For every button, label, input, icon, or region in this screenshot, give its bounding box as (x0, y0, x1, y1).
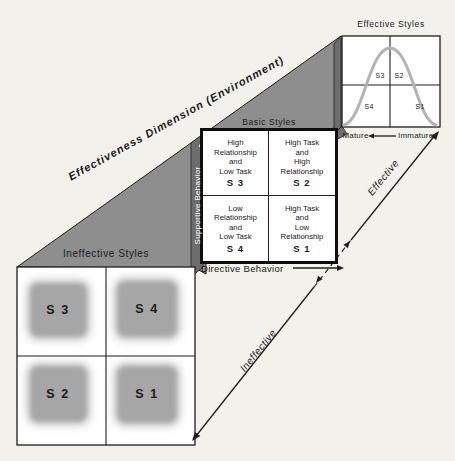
basic-quadrant-s4-code: S 4 (227, 243, 244, 254)
basic-quadrant-s1-code: S 1 (293, 243, 310, 254)
ineffective-styles-title: Ineffective Styles (25, 248, 187, 259)
basic-quadrant-s3-text: High Relationship and Low Task (214, 138, 257, 176)
basic-quadrant-s2-text: High Task and High Relationship (281, 138, 324, 176)
basic-quadrant-s4-text: Low Relationship and Low Task (214, 204, 257, 242)
effectiveness-axis-line-upper (351, 134, 436, 240)
basic-quadrant-s2-code: S 2 (293, 177, 310, 188)
directive-behavior-arrowhead (337, 265, 344, 271)
axis-arrowhead-mid-upper (344, 241, 351, 248)
ineffective-quadrant-s3: S 3 (38, 303, 78, 317)
basic-quadrant-s3: High Relationship and Low Task S 3 (203, 131, 269, 196)
basic-styles-box: High Relationship and Low Task S 3 High … (200, 128, 338, 264)
effective-quadrant-s4: S4 (361, 103, 377, 110)
ineffective-quadrant-s1: S 1 (127, 387, 167, 401)
basic-styles-title: Basic Styles (200, 117, 338, 127)
tri-dimensional-leader-effectiveness-model: Effectiveness Dimension (Environment) Ef… (0, 0, 455, 461)
maturity-label-mature: Mature (340, 131, 371, 140)
basic-quadrant-s1: High Task and Low Relationship S 1 (269, 196, 335, 261)
basic-quadrant-s1-text: High Task and Low Relationship (281, 204, 324, 242)
ineffective-quadrant-s2: S 2 (38, 387, 78, 401)
basic-quadrant-s2: High Task and High Relationship S 2 (269, 131, 335, 196)
basic-quadrant-s4: Low Relationship and Low Task S 4 (203, 196, 269, 261)
basic-quadrant-s3-code: S 3 (227, 177, 244, 188)
effective-quadrant-s3: S3 (372, 72, 388, 79)
effective-quadrant-s2: S2 (391, 72, 407, 79)
directive-behavior-axis-label: Directive Behavior (201, 263, 296, 274)
ineffective-quadrant-s4: S 4 (127, 302, 167, 316)
effective-styles-title: Effective Styles (342, 19, 440, 29)
maturity-label-immature: Immature (398, 131, 442, 140)
supportive-behavior-axis-label: Supportive Behavior (193, 150, 204, 262)
effective-quadrant-s1: S1 (412, 103, 428, 110)
